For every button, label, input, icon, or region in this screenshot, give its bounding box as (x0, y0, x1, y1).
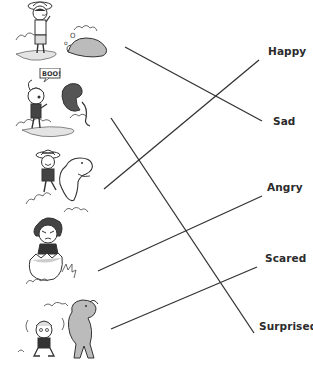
emotion-label-happy: Happy (268, 45, 306, 57)
angry-child-icon (26, 212, 96, 290)
connection-line-angry (98, 196, 262, 271)
scared-child-icon (14, 290, 110, 369)
surprised-child-icon: BOO! (14, 68, 106, 140)
connection-line-happy (104, 60, 259, 189)
crying-child-icon: o O (12, 0, 112, 68)
svg-text:o: o (64, 39, 68, 46)
worksheet: o O BOO! (0, 0, 313, 369)
svg-text:O: O (70, 32, 76, 40)
boo-speech-text: BOO! (42, 70, 61, 78)
emotion-label-sad: Sad (273, 115, 295, 127)
happy-child-icon (22, 142, 104, 218)
connection-line-surprised (111, 118, 254, 333)
emotion-label-scared: Scared (265, 252, 306, 264)
emotion-label-angry: Angry (267, 181, 303, 193)
emotion-label-surprised: Surprised (259, 320, 313, 332)
connection-line-sad (125, 47, 262, 121)
connection-line-scared (111, 267, 257, 329)
